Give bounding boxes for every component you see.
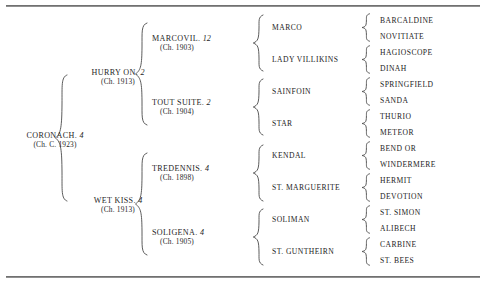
node-coronach-detail: (Ch. C. 1923) [0, 141, 110, 149]
brace-st-guntheirn [361, 237, 372, 266]
node-hurry-on-name: HURRY ON. 2 [66, 68, 170, 77]
node-coronach-name: CORONACH. 4 [0, 131, 110, 140]
leaf-gen4: STAR [272, 120, 293, 128]
pedigree-chart: CORONACH. 4 (Ch. C. 1923) HURRY ON. 2 (C… [0, 0, 487, 290]
node-soligena-name: SOLIGENA. 4 [152, 228, 256, 237]
leaf-gen5: WINDERMERE [380, 161, 436, 169]
node-hurry-on: HURRY ON. 2 (Ch. 1913) [66, 68, 170, 86]
leaf-gen5: SPRINGFIELD [380, 81, 433, 89]
leaf-gen4: LADY VILLIKINS [272, 56, 338, 64]
brace-st-marguerite [361, 173, 372, 202]
brace-star [361, 109, 372, 138]
leaf-gen4: ST. GUNTHEIRN [272, 248, 334, 256]
leaf-gen5: SANDA [380, 97, 408, 105]
node-wet-kiss-detail: (Ch. 1913) [66, 206, 170, 214]
node-marcovil-name: MARCOVIL. 12 [152, 34, 256, 43]
leaf-gen5: DEVOTION [380, 193, 423, 201]
leaf-gen5: HERMIT [380, 177, 412, 185]
leaf-gen4: SAINFOIN [272, 88, 311, 96]
leaf-gen4: SOLIMAN [272, 216, 310, 224]
node-tredennis: TREDENNIS. 4 (Ch. 1898) [152, 164, 256, 182]
node-soligena-detail: (Ch. 1905) [160, 238, 256, 246]
leaf-gen5: NOVITIATE [380, 33, 424, 41]
leaf-gen5: THURIO [380, 113, 411, 121]
leaf-gen4: KENDAL [272, 152, 306, 160]
node-tout-suite: TOUT SUITE. 2 (Ch. 1904) [152, 98, 256, 116]
brace-soliman [361, 205, 372, 234]
node-soligena: SOLIGENA. 4 (Ch. 1905) [152, 228, 256, 246]
leaf-gen5: HAGIOSCOPE [380, 49, 433, 57]
node-wet-kiss-name: WET KISS. 4 [66, 196, 170, 205]
bottom-rule [6, 276, 480, 278]
leaf-gen5: CARBINE [380, 241, 416, 249]
node-hurry-on-detail: (Ch. 1913) [66, 78, 170, 86]
leaf-gen5: ST. SIMON [380, 209, 421, 217]
leaf-gen5: BEND OR [380, 145, 416, 153]
top-rule [6, 5, 480, 7]
brace-kendal [361, 141, 372, 170]
leaf-gen5: DINAH [380, 65, 407, 73]
leaf-gen4: MARCO [272, 24, 302, 32]
node-coronach: CORONACH. 4 (Ch. C. 1923) [0, 131, 110, 149]
leaf-gen5: METEOR [380, 129, 414, 137]
node-marcovil-detail: (Ch. 1903) [160, 44, 256, 52]
leaf-gen5: BARCALDINE [380, 17, 433, 25]
brace-sainfoin [361, 77, 372, 106]
leaf-gen5: ST. BEES [380, 257, 414, 265]
leaf-gen4: ST. MARGUERITE [272, 184, 340, 192]
node-marcovil: MARCOVIL. 12 (Ch. 1903) [152, 34, 256, 52]
node-tout-suite-name: TOUT SUITE. 2 [152, 98, 256, 107]
brace-lady-villikins [361, 45, 372, 74]
brace-marco [361, 13, 372, 42]
node-tredennis-name: TREDENNIS. 4 [152, 164, 256, 173]
node-tout-suite-detail: (Ch. 1904) [160, 108, 256, 116]
leaf-gen5: ALIBECH [380, 225, 416, 233]
node-wet-kiss: WET KISS. 4 (Ch. 1913) [66, 196, 170, 214]
node-tredennis-detail: (Ch. 1898) [160, 174, 256, 182]
